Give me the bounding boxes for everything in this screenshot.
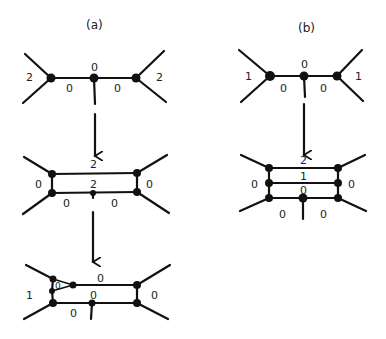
label: 0 [146,178,153,191]
label: 0 [63,197,70,210]
label: 0 [97,272,104,285]
label: 0 [70,307,77,320]
label: 0 [301,58,308,71]
label: 0 [90,289,97,302]
graph-a-bottom: 0 0 0 1 0 0 [24,265,170,320]
vertex [334,164,342,172]
label: 0 [300,184,307,197]
label: 2 [90,158,97,171]
vertex [334,194,342,202]
vertex [48,189,56,197]
label: 0 [114,82,121,95]
label: 0 [55,281,61,291]
vertex [133,299,141,307]
label: 0 [280,82,287,95]
vertex [333,72,342,81]
vertex [133,281,141,289]
label: 0 [35,178,42,191]
vertex [49,299,57,307]
label: 1 [355,70,362,83]
vertex [265,179,273,187]
vertex [132,74,141,83]
label: 0 [91,61,98,74]
vertex [133,188,141,196]
graph-b-middle: 2 1 0 0 0 0 0 [240,154,366,221]
label: 2 [90,178,97,191]
label: 2 [26,71,33,84]
graph-b-top: 1 0 1 0 0 [239,50,363,102]
label: 0 [151,289,158,302]
vertex [334,179,342,187]
vertex [265,164,273,172]
label: 0 [66,82,73,95]
label: 0 [320,208,327,221]
label: 0 [348,178,355,191]
graph-a-top: 2 0 2 0 0 [23,51,166,104]
vertex [265,71,275,81]
vertex [133,169,141,177]
panel-label-b: (b) [298,21,315,35]
label: 1 [26,289,33,302]
vertex [90,74,99,83]
vertex [300,72,309,81]
label: 1 [245,70,252,83]
label: 1 [300,170,307,183]
label: 2 [156,71,163,84]
label: 0 [320,82,327,95]
label: 0 [111,197,118,210]
graph-a-middle: 2 2 0 0 0 0 [23,155,169,214]
vertex [47,74,56,83]
label: 2 [300,154,307,167]
label: 0 [251,178,258,191]
label: 0 [279,208,286,221]
vertex [265,194,273,202]
diagram-canvas: (a) (b) 2 0 2 0 0 2 2 0 [0,0,386,339]
vertex [70,282,77,289]
panel-label-a: (a) [86,18,103,32]
vertex [48,170,56,178]
